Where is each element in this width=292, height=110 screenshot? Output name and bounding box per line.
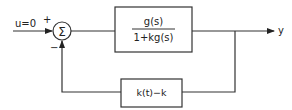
feedback-block: k(t)−k [121,79,182,107]
plus-sign: + [43,14,51,25]
sigma-icon: Σ [58,25,66,39]
output-label: y [278,25,284,36]
summing-junction: Σ [53,22,71,40]
forward-numerator: g(s) [144,16,163,27]
forward-block: g(s) 1+kg(s) [115,7,192,52]
forward-denominator: 1+kg(s) [134,32,174,43]
block-diagram: u=0 + − Σ g(s) 1+kg(s) y k(t)−k [0,0,292,110]
input-label: u=0 [15,18,36,29]
feedback-label: k(t)−k [136,87,167,98]
feedback-path-left [62,41,121,92]
minus-sign: − [50,42,58,53]
